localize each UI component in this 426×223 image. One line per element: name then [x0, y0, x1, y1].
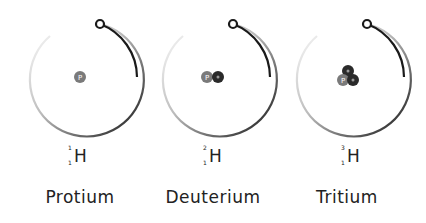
element-symbol: H	[74, 146, 87, 166]
electron-orbit	[30, 24, 144, 136]
atomic-number: 1	[68, 159, 72, 166]
nucleus: P	[201, 71, 224, 83]
atom-tritium: P 3 1 H Tritium	[277, 0, 417, 223]
atom-deuterium: P 2 1 H Deuterium	[143, 0, 283, 223]
deuterium-diagram: P	[143, 0, 283, 140]
atomic-number: 1	[203, 159, 207, 166]
tritium-diagram: P	[277, 0, 417, 140]
electron	[363, 20, 371, 28]
nucleus: P	[74, 71, 86, 83]
mass-number: 2	[203, 144, 207, 151]
atomic-number: 1	[341, 159, 345, 166]
mass-number: 1	[68, 144, 72, 151]
mass-number: 3	[341, 144, 345, 151]
isotope-name: Protium	[10, 187, 150, 207]
electron	[96, 20, 104, 28]
svg-text:P: P	[341, 77, 345, 85]
isotope-name: Deuterium	[143, 187, 283, 207]
element-symbol: H	[347, 146, 360, 166]
svg-text:P: P	[205, 74, 209, 82]
isotope-name: Tritium	[277, 187, 417, 207]
nucleus: P	[337, 65, 359, 86]
element-symbol: H	[209, 146, 222, 166]
atom-protium: P 1 1 H Protium	[10, 0, 150, 223]
svg-text:P: P	[78, 74, 82, 82]
protium-diagram: P	[10, 0, 150, 140]
electron	[229, 20, 237, 28]
